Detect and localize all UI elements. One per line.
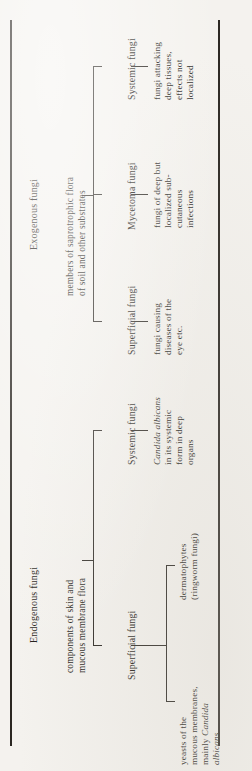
endogenous-subbracket-arm-yeasts	[166, 701, 175, 702]
exogenous-stub-systemic	[131, 66, 148, 67]
endogenous-root-label: Endogenous fungi	[27, 567, 40, 643]
endogenous-stub-superficial	[131, 645, 166, 646]
endogenous-sub-dermatophytes-line2: (ringworm fungi)	[189, 533, 201, 600]
exogenous-bracket-arm-superficial	[93, 321, 102, 322]
page-rule-left	[10, 20, 12, 746]
exogenous-child-label-mycetoma: Mycetoma fungi	[126, 162, 139, 230]
endogenous-desc-systemic-line4: organs	[185, 440, 197, 465]
exogenous-root-description-line2: of soil and other substrates	[76, 190, 88, 296]
exogenous-bracket-arm-systemic	[93, 66, 102, 67]
endogenous-sub-yeasts-line4: albicans	[211, 732, 223, 765]
page-rule-right	[218, 20, 220, 746]
endogenous-bracket-arm-systemic	[93, 430, 102, 431]
exogenous-root-label: Exogenous fungi	[27, 179, 40, 250]
endogenous-subbracket-spine	[166, 565, 167, 702]
exogenous-bracket-arm-mycetoma	[93, 194, 102, 195]
endogenous-stub-systemic	[131, 430, 148, 431]
endogenous-child-label-systemic: Systemic fungi	[126, 403, 139, 465]
exogenous-desc-systemic-line4: localized	[185, 65, 197, 100]
exogenous-desc-mycetoma-line4: infections	[185, 190, 197, 228]
exogenous-root-description-line1: members of saprotrophic flora	[64, 177, 76, 296]
endogenous-bracket-spine	[93, 430, 94, 646]
exogenous-stub-superficial	[131, 321, 148, 322]
exogenous-child-label-systemic: Systemic fungi	[126, 38, 139, 100]
endogenous-root-description-line1: components of skin and	[64, 580, 76, 673]
figure-page: Exogenous fungi members of saprotrophic …	[0, 0, 252, 771]
exogenous-stub-mycetoma	[131, 194, 148, 195]
exogenous-desc-superficial-line3: eye etc.	[174, 325, 186, 355]
endogenous-subbracket-arm-dermatophytes	[166, 565, 175, 566]
endogenous-bracket-arm-superficial	[93, 645, 102, 646]
endogenous-root-description-line2: mucous membrane flora	[76, 578, 88, 673]
